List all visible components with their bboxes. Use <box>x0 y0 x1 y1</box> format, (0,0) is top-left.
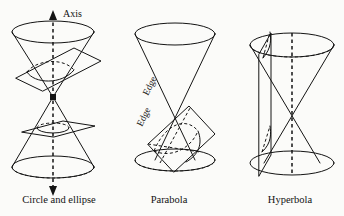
parabola-cut-plane <box>148 106 215 172</box>
figure-canvas: Axis Edge Edge <box>0 0 344 216</box>
edge-label-lower: Edge <box>135 106 153 128</box>
hyperbola-slant-b <box>264 45 334 163</box>
caption-circle-and-ellipse: Circle and ellipse <box>0 194 118 205</box>
parabola-lower-hidden-rim <box>135 160 215 171</box>
parabola-upper-rim-ellipse <box>135 23 215 45</box>
panel-hyperbola-graphic <box>250 32 334 176</box>
cone-apex-marker <box>50 94 56 100</box>
axis-label: Axis <box>63 8 82 19</box>
panel-circle-ellipse-graphic: Axis <box>12 8 101 196</box>
edge-label-upper: Edge <box>141 75 159 97</box>
parabola-slant-b <box>155 34 215 160</box>
parabola-hidden-chord-2 <box>160 108 190 163</box>
axis-arrow-up-icon <box>49 10 57 20</box>
conic-sections-figure: Axis Edge Edge <box>0 0 344 216</box>
hyperbola-slant-a <box>250 45 320 163</box>
tilted-cut-plane <box>16 48 101 91</box>
caption-parabola: Parabola <box>122 194 216 205</box>
caption-hyperbola: Hyperbola <box>240 194 340 205</box>
parabola-section-hidden-arc <box>154 124 198 151</box>
panel-parabola-graphic: Edge Edge <box>135 23 215 172</box>
parabola-slant-a <box>135 34 195 160</box>
